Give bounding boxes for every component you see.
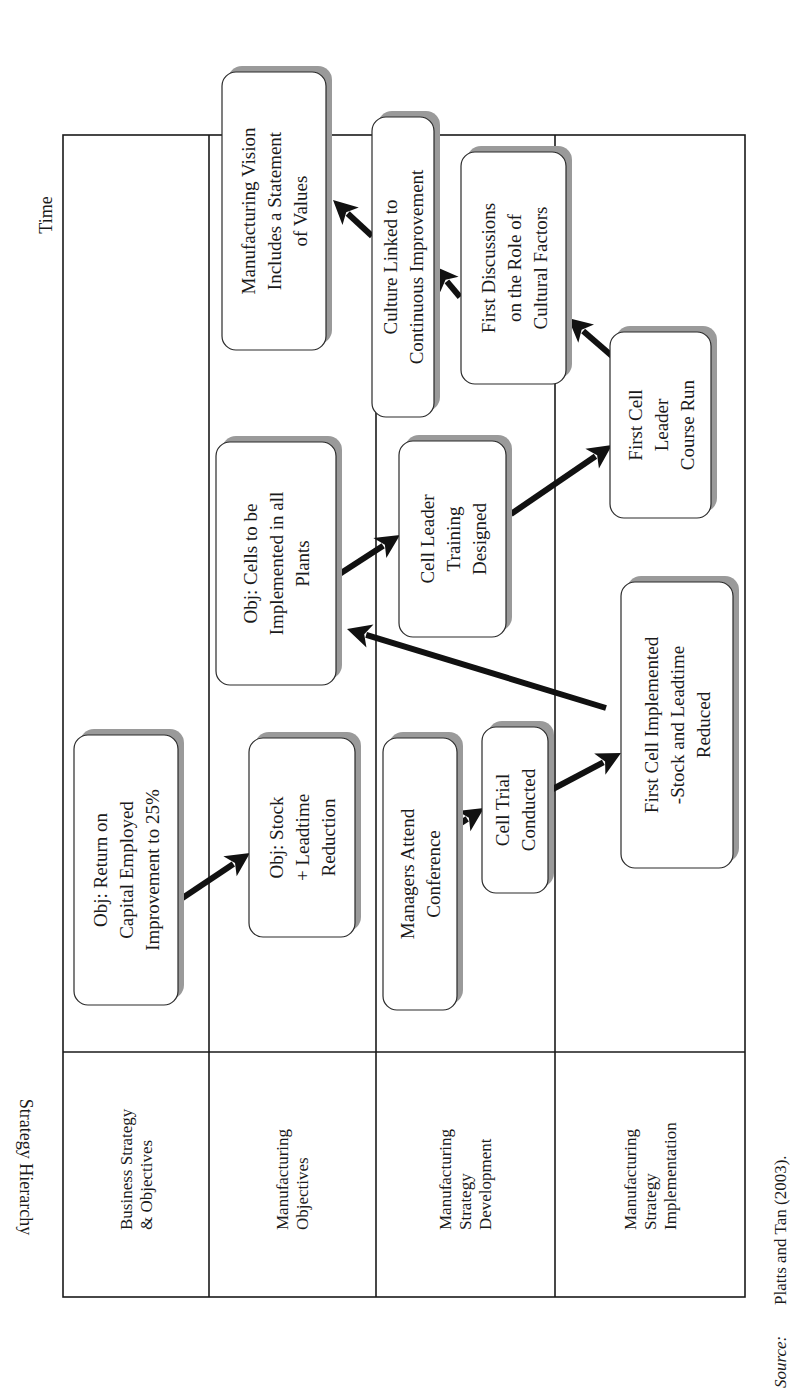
node-label-line: Designed xyxy=(469,503,490,575)
lane-header-line: Strategy xyxy=(641,1173,660,1230)
arrow-cell-trial-to-first-cell-implemented xyxy=(551,753,621,790)
lane-header-business: Business Strategy& Objectives xyxy=(117,1108,156,1230)
arrow-cells-all-plants-to-cell-leader-training xyxy=(338,535,400,575)
node-label-line: Improvement to 25% xyxy=(142,789,163,951)
node-label-line: Plants xyxy=(292,540,313,586)
node-label-line: First Cell Implemented xyxy=(641,636,662,813)
node-label-line: Obj: Cells to be xyxy=(240,504,261,624)
node-label-line: Obj: Stock xyxy=(266,796,287,878)
arrow-shaft xyxy=(511,456,595,514)
node-label-line: Reduction xyxy=(318,798,339,877)
node-mfg-vision-values: Manufacturing VisionIncludes a Statement… xyxy=(222,66,332,350)
node-label-line: Training xyxy=(443,506,464,571)
node-label-line: Cell Leader xyxy=(417,494,438,584)
source-caption: Source: Platts and Tan (2003). xyxy=(771,1155,790,1388)
strategy-hierarchy-label: Strategy Hierarchy xyxy=(16,1099,36,1235)
arrow-shaft xyxy=(583,331,612,356)
node-label-line: Course Run xyxy=(677,379,698,470)
time-label: Time xyxy=(36,196,56,233)
node-box xyxy=(383,738,457,1010)
lane-header-line: & Objectives xyxy=(137,1140,156,1230)
arrow-shaft xyxy=(551,762,603,790)
arrow-first-cell-leader-course-to-first-discussions-culture xyxy=(568,318,612,356)
node-label-line: Continuous Improvement xyxy=(406,169,427,364)
node-cells-all-plants: Obj: Cells to beImplemented in allPlants xyxy=(216,436,342,685)
arrow-culture-continuous-improvement-to-mfg-vision-values xyxy=(333,200,372,236)
arrow-head-icon xyxy=(585,445,612,468)
hierarchy-axis-label: Strategy Hierarchy xyxy=(16,1099,36,1235)
node-label-line: of Values xyxy=(290,176,311,247)
node-stock-leadtime-obj: Obj: Stock+ LeadtimeReduction xyxy=(249,732,361,937)
node-cell-leader-training: Cell LeaderTrainingDesigned xyxy=(399,435,512,637)
node-first-cell-leader-course: First CellLeaderCourse Run xyxy=(610,326,717,518)
node-label-line: Conducted xyxy=(518,768,539,851)
source-citation: Platts and Tan (2003). xyxy=(771,1155,790,1305)
node-label-line: First Discussions xyxy=(478,203,499,333)
lane-header-line: Manufacturing xyxy=(436,1128,455,1230)
node-first-discussions-culture: First Discussionson the Role ofCultural … xyxy=(461,146,572,384)
node-label-line: Cultural Factors xyxy=(530,207,551,330)
node-label-line: Leader xyxy=(651,398,672,451)
lane-header-line: Business Strategy xyxy=(117,1108,136,1230)
lane-header-line: Implementation xyxy=(661,1122,680,1230)
node-culture-continuous-improvement: Culture Linked toContinuous Improvement xyxy=(372,111,440,417)
node-label-line: First Cell xyxy=(625,389,646,460)
arrow-shaft xyxy=(366,635,606,708)
node-managers-conference: Managers AttendConference xyxy=(383,732,463,1010)
arrow-shaft xyxy=(348,214,372,236)
lane-header-mfg-development: ManufacturingStrategyDevelopment xyxy=(436,1128,495,1230)
lane-header-line: Development xyxy=(476,1138,495,1230)
node-label-line: Managers Attend xyxy=(397,808,418,939)
time-axis-label: Time xyxy=(36,196,56,233)
node-label-line: Conference xyxy=(423,830,444,918)
node-label-line: Manufacturing Vision xyxy=(238,127,259,294)
node-label-line: Implemented in all xyxy=(266,492,287,636)
strategy-hierarchy-diagram: Business Strategy& ObjectivesManufacturi… xyxy=(0,0,801,1393)
arrow-shaft xyxy=(447,281,460,297)
node-label-line: + Leadtime xyxy=(292,794,313,881)
lane-header-line: Objectives xyxy=(293,1157,312,1230)
node-label-line: Reduced xyxy=(693,691,714,758)
node-cell-trial: Cell TrialConducted xyxy=(482,721,554,893)
node-label-line: Capital Employed xyxy=(116,801,137,939)
source-label: Source: xyxy=(771,1336,790,1388)
node-label-line: Obj: Return on xyxy=(90,813,111,927)
node-label-line: -Stock and Leadtime xyxy=(667,646,688,804)
lane-header-mfg-objectives: ManufacturingObjectives xyxy=(273,1128,312,1230)
lane-header-line: Manufacturing xyxy=(621,1128,640,1230)
node-first-cell-implemented: First Cell Implemented-Stock and Leadtim… xyxy=(621,576,739,868)
lane-headers: Business Strategy& ObjectivesManufacturi… xyxy=(117,1108,680,1230)
lane-header-line: Strategy xyxy=(456,1173,475,1230)
arrow-cell-leader-training-to-first-cell-leader-course xyxy=(511,445,612,514)
node-label-line: Includes a Statement xyxy=(264,131,285,290)
lane-header-mfg-implementation: ManufacturingStrategyImplementation xyxy=(621,1122,680,1230)
lane-header-line: Manufacturing xyxy=(273,1128,292,1230)
node-label-line: on the Role of xyxy=(504,213,525,322)
node-roce: Obj: Return onCapital EmployedImprovemen… xyxy=(74,729,184,1005)
node-label-line: Culture Linked to xyxy=(380,199,401,334)
nodes: Obj: Return onCapital EmployedImprovemen… xyxy=(74,66,739,1010)
node-label-line: Cell Trial xyxy=(492,774,513,846)
